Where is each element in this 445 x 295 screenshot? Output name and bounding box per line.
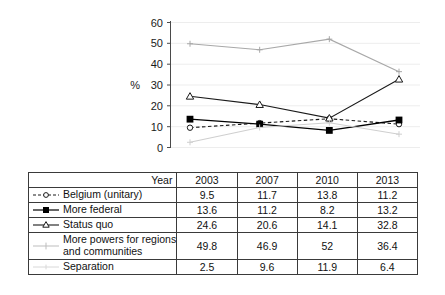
y-axis-ticks (167, 23, 171, 148)
row-label-more-federal: More federal (29, 203, 177, 218)
row-label-more-powers: More powers for regions and communities (29, 233, 177, 260)
data-point-marker (396, 131, 402, 137)
series-name: More federal (63, 204, 122, 216)
table-row: More powers for regions and communities … (29, 233, 418, 260)
solid-filled-square-marker-icon (33, 205, 59, 215)
data-point-marker (187, 125, 192, 130)
cell-value: 20.6 (237, 218, 297, 233)
dashed-open-circle-marker-icon (33, 190, 59, 200)
y-axis-unit-label: % (130, 79, 140, 91)
data-point-marker (187, 41, 193, 47)
data-point-marker (257, 47, 263, 53)
gridlines (171, 23, 420, 148)
cell-value: 46.9 (237, 233, 297, 260)
series-name-line1: More powers for regions (63, 233, 176, 245)
series-name: Belgium (unitary) (63, 189, 142, 201)
series-layer (186, 36, 402, 145)
table-header-2003: 2003 (177, 173, 237, 188)
table-row: Status quo 24.6 20.6 14.1 32.8 (29, 218, 418, 233)
cell-value: 14.1 (297, 218, 357, 233)
series-separation (187, 120, 402, 146)
cell-value: 32.8 (357, 218, 417, 233)
cell-value: 11.9 (297, 259, 357, 274)
data-point-marker (326, 36, 332, 42)
cell-value: 11.2 (357, 188, 417, 203)
table-header-year: Year (29, 173, 177, 188)
series-more-powers-for-regions-and-communities (187, 36, 402, 75)
y-tick-10: 10 (151, 121, 163, 133)
y-tick-60: 60 (151, 17, 163, 29)
cell-value: 11.2 (237, 203, 297, 218)
chart-region: 60 50 40 30 20 10 0 % (0, 0, 445, 172)
faint-line-marker-icon (33, 262, 59, 272)
cell-value: 49.8 (177, 233, 237, 260)
data-point-marker (395, 76, 402, 83)
table-header-2013: 2013 (357, 173, 417, 188)
solid-open-triangle-marker-icon (33, 220, 59, 230)
series-belgium-unitary (187, 116, 401, 130)
cell-value: 13.6 (177, 203, 237, 218)
table-row: Separation 2.5 9.6 11.9 6.4 (29, 259, 418, 274)
table-header-2007: 2007 (237, 173, 297, 188)
row-label-status-quo: Status quo (29, 218, 177, 233)
data-point-marker (187, 116, 194, 123)
y-tick-40: 40 (151, 58, 163, 70)
cell-value: 13.8 (297, 188, 357, 203)
y-tick-20: 20 (151, 100, 163, 112)
cell-value: 9.5 (177, 188, 237, 203)
y-tick-30: 30 (151, 79, 163, 91)
series-data-table: Year 2003 2007 2010 2013 (28, 172, 418, 275)
series-status-quo (186, 76, 402, 121)
data-point-marker (396, 69, 402, 75)
table-header-2010: 2010 (297, 173, 357, 188)
cell-value: 6.4 (357, 259, 417, 274)
data-point-marker (186, 93, 193, 100)
y-tick-0: 0 (157, 142, 163, 154)
series-line (190, 39, 399, 72)
line-chart: 60 50 40 30 20 10 0 % (0, 0, 445, 172)
table-row: Belgium (unitary) 9.5 11.7 13.8 11.2 (29, 188, 418, 203)
row-label-separation: Separation (29, 259, 177, 274)
cell-value: 9.6 (237, 259, 297, 274)
table-row: More federal 13.6 11.2 8.2 13.2 (29, 203, 418, 218)
series-name: Status quo (63, 219, 113, 231)
data-point-marker (326, 127, 333, 134)
cell-value: 11.7 (237, 188, 297, 203)
row-label-belgium-unitary: Belgium (unitary) (29, 188, 177, 203)
y-tick-50: 50 (151, 37, 163, 49)
series-name-line2: and communities (63, 245, 142, 257)
cell-value: 36.4 (357, 233, 417, 260)
data-point-marker (396, 117, 403, 124)
cell-value: 2.5 (177, 259, 237, 274)
cell-value: 8.2 (297, 203, 357, 218)
data-point-marker (187, 139, 193, 145)
data-table-region: Year 2003 2007 2010 2013 (28, 172, 418, 275)
cell-value: 24.6 (177, 218, 237, 233)
cell-value: 52 (297, 233, 357, 260)
faint-plus-marker-icon (33, 241, 59, 251)
cell-value: 13.2 (357, 203, 417, 218)
series-name: Separation (63, 261, 114, 273)
table-header-row: Year 2003 2007 2010 2013 (29, 173, 418, 188)
